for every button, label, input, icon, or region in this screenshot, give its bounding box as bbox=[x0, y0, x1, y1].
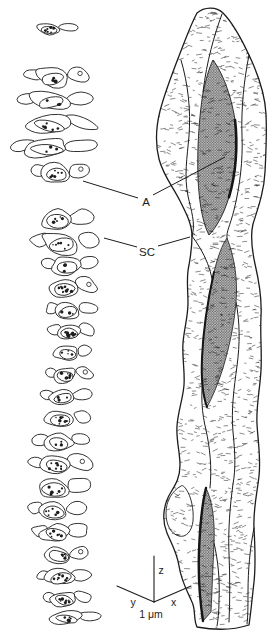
section-tracing bbox=[32, 433, 90, 451]
section-tracing bbox=[40, 389, 92, 405]
section-tracing bbox=[44, 546, 88, 563]
section-tracing bbox=[42, 209, 94, 230]
y-axis-label: y bbox=[130, 596, 136, 608]
section-tracing bbox=[41, 256, 98, 275]
label-sc: SC bbox=[139, 246, 155, 258]
label-a: A bbox=[142, 196, 150, 208]
section-tracing bbox=[28, 501, 87, 520]
serial-sections-stack bbox=[10, 24, 101, 625]
reconstruction-3d-model bbox=[155, 8, 273, 629]
figure-svg: A SC z y x 1 μm bbox=[0, 0, 278, 636]
section-tracing bbox=[31, 523, 87, 541]
section-tracing bbox=[46, 302, 98, 319]
leader-line-a-left bbox=[83, 181, 138, 198]
section-tracing bbox=[31, 162, 90, 182]
leader-line-sc-left bbox=[104, 238, 137, 247]
section-tracing bbox=[43, 591, 91, 607]
section-tracing bbox=[46, 367, 94, 384]
section-tracing bbox=[17, 91, 93, 109]
section-tracing bbox=[28, 454, 93, 474]
section-tracing bbox=[44, 411, 91, 427]
section-tracing bbox=[37, 24, 78, 36]
section-tracing bbox=[53, 345, 92, 360]
section-tracing bbox=[10, 138, 97, 158]
x-axis-label: x bbox=[171, 596, 177, 608]
section-tracing bbox=[49, 276, 98, 297]
section-tracing bbox=[25, 114, 98, 133]
section-tracing bbox=[40, 478, 91, 497]
section-tracing bbox=[30, 232, 99, 255]
figure-canvas: A SC z y x 1 μm bbox=[0, 0, 278, 636]
section-tracing bbox=[49, 611, 101, 625]
section-tracing bbox=[47, 323, 94, 339]
z-axis-label: z bbox=[159, 564, 164, 576]
scale-bar-label: 1 μm bbox=[139, 608, 163, 620]
leader-line-sc-right bbox=[158, 237, 190, 246]
section-tracing bbox=[24, 67, 90, 88]
section-tracing bbox=[37, 568, 92, 584]
